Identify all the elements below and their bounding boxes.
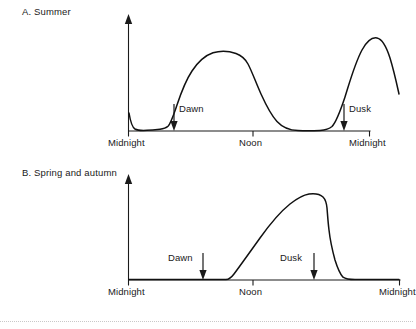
panel-a-xlabel-midnight-right: Midnight <box>349 137 386 148</box>
panel-b-dawn-label: Dawn <box>168 252 193 263</box>
y-axis-arrowhead-icon <box>125 14 132 24</box>
panel-b-xlabel-midnight-left: Midnight <box>108 286 145 297</box>
y-axis-arrowhead-icon <box>125 174 132 184</box>
panel-a-xlabel-noon: Noon <box>239 137 262 148</box>
panel-b-xlabel-midnight-right: Midnight <box>379 286 416 297</box>
panel-a-dawn-arrowhead-icon <box>170 121 177 131</box>
panel-a-dusk-arrowhead-icon <box>340 121 347 131</box>
panel-b-dawn-arrowhead-icon <box>199 270 206 280</box>
panel-a-dusk-label: Dusk <box>349 103 371 114</box>
panel-a-plot <box>0 0 413 160</box>
panel-a-dawn-label: Dawn <box>179 103 204 114</box>
panel-b-dusk-arrowhead-icon <box>310 270 317 280</box>
panel-b-curve <box>129 194 399 280</box>
panel-a-xlabel-midnight-left: Midnight <box>108 137 145 148</box>
panel-spring-autumn: B. Spring and autumn Dawn Dusk Midnight … <box>0 160 413 329</box>
bottom-divider <box>0 321 413 323</box>
panel-summer: A. Summer Dawn Dusk Midnight Noon Midnig… <box>0 0 413 160</box>
panel-b-dusk-label: Dusk <box>280 252 302 263</box>
panel-b-plot <box>0 160 413 329</box>
panel-b-xlabel-noon: Noon <box>239 286 262 297</box>
panel-a-curve <box>129 38 399 131</box>
